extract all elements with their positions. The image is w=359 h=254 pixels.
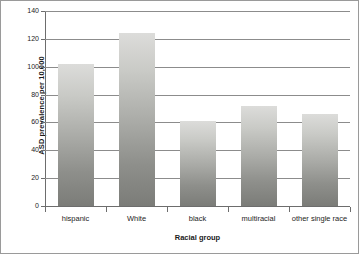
chart-frame: ASD prevalence per 10,000 02040608010012… bbox=[0, 0, 359, 254]
x-axis-tick-mark bbox=[228, 207, 229, 212]
y-axis-tick-label: 100 bbox=[13, 63, 39, 70]
x-axis-tick-label: black bbox=[167, 214, 228, 223]
x-axis-tick-label: multiracial bbox=[228, 214, 289, 223]
y-axis-tick-label: 20 bbox=[13, 174, 39, 181]
y-axis-tick-label: 120 bbox=[13, 35, 39, 42]
bar bbox=[302, 114, 338, 206]
gridline bbox=[45, 39, 350, 40]
y-axis-tick-label: 140 bbox=[13, 7, 39, 14]
x-axis-tick-mark bbox=[350, 207, 351, 212]
x-axis-title: Racial group bbox=[45, 233, 350, 242]
gridline bbox=[45, 206, 350, 207]
y-axis-tick-label: 0 bbox=[13, 202, 39, 209]
bar bbox=[58, 64, 94, 206]
gridline bbox=[45, 11, 350, 12]
bar bbox=[119, 33, 155, 206]
y-axis-tick-label: 60 bbox=[13, 118, 39, 125]
plot-area bbox=[45, 11, 350, 206]
x-axis-tick-label: White bbox=[106, 214, 167, 223]
y-axis-tick-label: 40 bbox=[13, 146, 39, 153]
x-axis-tick-mark bbox=[45, 207, 46, 212]
y-axis-tick-label: 80 bbox=[13, 91, 39, 98]
bar bbox=[241, 106, 277, 206]
x-axis-tick-label: other single race bbox=[289, 214, 350, 223]
x-axis-tick-label: hispanic bbox=[45, 214, 106, 223]
x-axis-tick-mark bbox=[167, 207, 168, 212]
bar bbox=[180, 121, 216, 206]
x-axis-tick-mark bbox=[106, 207, 107, 212]
x-axis-tick-mark bbox=[289, 207, 290, 212]
